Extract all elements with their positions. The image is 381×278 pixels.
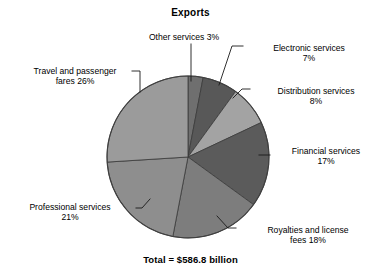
- leader-line-electronic-services: [219, 46, 243, 85]
- slice-label-travel-and-passenger-fares: Travel and passenger fares 26%: [12, 66, 138, 87]
- slice-label-distribution-services: Distribution services 8%: [252, 86, 380, 107]
- pie-slice-travel-and-passenger-fares[interactable]: [107, 76, 188, 162]
- chart-total-caption: Total = $586.8 billion: [0, 254, 381, 265]
- slice-label-financial-services: Financial services 17%: [272, 146, 380, 167]
- slice-label-royalties-and-license-fees: Royalties and license fees 18%: [238, 225, 378, 246]
- slice-label-other-services: Other services 3%: [110, 32, 258, 42]
- slice-label-electronic-services: Electronic services 7%: [246, 43, 372, 64]
- chart-page: Exports: [0, 0, 381, 278]
- slice-label-professional-services: Professional services 21%: [6, 202, 134, 223]
